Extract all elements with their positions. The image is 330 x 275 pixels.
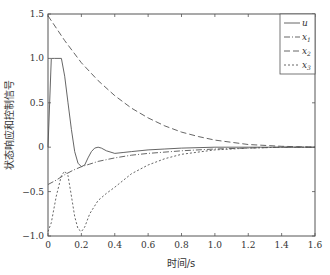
x-tick-label: 0.8 — [174, 240, 189, 250]
legend: ux1x2x3 — [280, 14, 315, 74]
line-chart: 00.20.40.60.81.01.21.41.6 1.51.00.50−0.5… — [0, 0, 330, 275]
y-tick-label: −0.5 — [22, 187, 44, 197]
x-tick-label: 0.2 — [74, 240, 88, 250]
x-tick-label: 1.2 — [241, 240, 255, 250]
x-tick-label: 1.6 — [308, 240, 323, 250]
y-tick-label: 1.0 — [30, 53, 45, 63]
x-tick-label: 0.6 — [141, 240, 156, 250]
x-tick-label: 1.0 — [208, 240, 223, 250]
x-tick-label: 0.4 — [108, 240, 123, 250]
legend-label: u — [302, 18, 308, 28]
y-tick-label: 0 — [38, 142, 44, 152]
y-axis-label: 状态响应和控制信号 — [3, 80, 15, 170]
x-axis-label: 时间/s — [167, 257, 196, 269]
y-tick-label: −1.0 — [22, 231, 44, 241]
y-tick-label: 0.5 — [30, 98, 45, 108]
plot-frame — [48, 14, 315, 236]
x-tick-label: 0 — [45, 240, 51, 250]
y-tick-label: 1.5 — [30, 9, 45, 19]
x-tick-label: 1.4 — [274, 240, 289, 250]
